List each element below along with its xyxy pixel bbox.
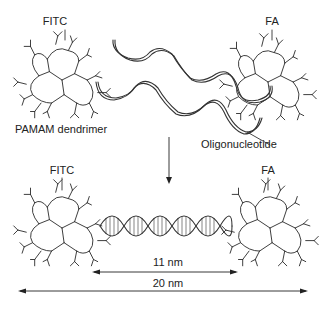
oligonucleotide-caption: Oligonucleotide [201, 138, 277, 150]
top-fitc-label: FITC [43, 15, 67, 27]
dna-double-helix [100, 216, 232, 236]
dimension-20nm: 20 nm [18, 277, 308, 294]
bottom-fitc-label: FITC [50, 164, 74, 176]
bottom-fa-label: FA [261, 164, 275, 176]
bottom-right-dendrimer: FA [222, 164, 319, 266]
pamam-dendrimer-caption: PAMAM dendrimer [15, 123, 107, 135]
reaction-arrow [166, 137, 172, 184]
top-left-dendrimer: FITC [14, 15, 111, 118]
top-right-dendrimer: FA [220, 15, 317, 120]
dendrimer-dna-diagram: FITC FA PAMAM dendrimer Oligonucleotide … [0, 0, 319, 310]
dimension-11nm-label: 11 nm [153, 256, 183, 268]
dimension-20nm-label: 20 nm [153, 277, 184, 289]
bottom-left-dendrimer: FITC [14, 164, 111, 266]
dimension-11nm: 11 nm [92, 256, 238, 275]
top-fa-label: FA [265, 15, 279, 27]
